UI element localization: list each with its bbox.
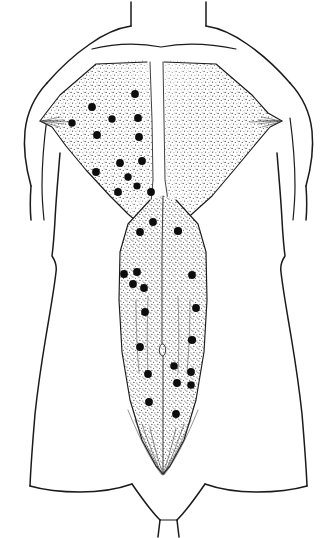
trigger-point-marker <box>173 379 181 387</box>
trigger-point-marker <box>68 119 75 126</box>
trapezius-superior-border <box>92 44 236 49</box>
trigger-point-marker <box>187 381 195 389</box>
gluteal-crease-right <box>177 484 205 520</box>
trigger-point-marker <box>108 115 115 122</box>
trigger-point-marker <box>149 218 157 226</box>
gluteal-cleft-left <box>158 520 160 537</box>
trigger-point-marker <box>133 268 141 276</box>
left-arm-inner-outline <box>42 118 47 220</box>
trigger-point-marker <box>133 182 140 189</box>
trigger-point-marker <box>187 368 195 376</box>
gluteal-cleft-right <box>177 520 179 537</box>
left-flank-outline <box>30 153 60 486</box>
trigger-point-marker <box>188 271 196 279</box>
trigger-point-marker <box>129 280 137 288</box>
trigger-point-marker <box>135 133 143 141</box>
trigger-point-marker <box>170 362 178 370</box>
gluteal-crease-left <box>132 484 160 520</box>
right-flank-outline <box>277 153 307 486</box>
right-arm-outline <box>306 186 307 220</box>
right-deltoid-outline <box>290 83 313 186</box>
trigger-point-marker <box>114 188 122 196</box>
trigger-point-marker <box>145 398 153 406</box>
trigger-point-marker <box>141 308 149 316</box>
left-arm-outline <box>30 186 31 220</box>
left-deltoid-outline <box>24 83 47 186</box>
trigger-point-marker <box>174 227 182 235</box>
trigger-point-marker <box>136 343 144 351</box>
trigger-point-marker <box>144 370 152 378</box>
left-hip-outline <box>30 484 132 492</box>
trigger-point-marker <box>131 90 139 98</box>
trigger-point-marker <box>124 173 131 180</box>
trigger-point-marker <box>192 304 200 312</box>
posterior-body-diagram <box>0 0 330 538</box>
trigger-point-marker <box>120 270 128 278</box>
right-hip-outline <box>205 484 307 492</box>
trigger-point-marker <box>138 157 146 165</box>
trigger-point-marker <box>172 410 180 418</box>
trigger-point-marker <box>140 284 148 292</box>
trigger-point-marker <box>116 159 124 167</box>
trigger-point-marker <box>134 114 142 122</box>
trigger-point-marker <box>93 131 101 139</box>
trigger-point-marker <box>147 188 155 196</box>
anatomy-figure: Posterior trunk trigger point chart <box>0 0 330 538</box>
trigger-point-marker <box>188 336 196 344</box>
right-arm-inner-outline <box>290 118 295 220</box>
trigger-point-marker <box>88 103 96 111</box>
trigger-point-marker <box>92 168 100 176</box>
trigger-point-marker <box>136 228 144 236</box>
